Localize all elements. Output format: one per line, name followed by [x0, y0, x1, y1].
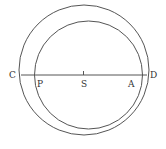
label-a: A	[127, 79, 135, 89]
orbit-diagram: C P S A D	[0, 0, 166, 149]
label-d: D	[150, 70, 157, 80]
label-s: S	[81, 79, 87, 89]
label-p: P	[37, 79, 43, 89]
label-c: C	[9, 70, 16, 80]
outer-circle	[19, 5, 149, 135]
